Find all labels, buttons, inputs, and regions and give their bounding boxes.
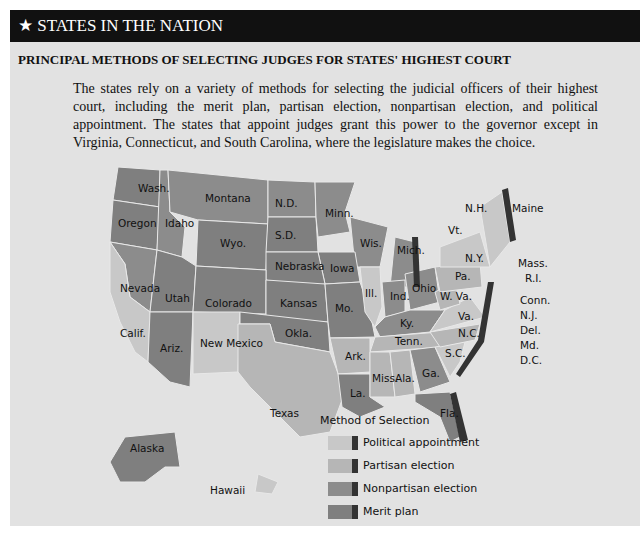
label-colorado: Colorado	[205, 297, 252, 309]
label-virginia: Va.	[458, 310, 474, 322]
label-louisiana: La.	[350, 387, 366, 399]
label-illinois: Ill.	[365, 287, 377, 299]
label-arkansas: Ark.	[345, 350, 366, 362]
content-panel: PRINCIPAL METHODS OF SELECTING JUDGES FO…	[10, 42, 640, 526]
label-vermont: Vt.	[448, 224, 463, 236]
label-hawaii: Hawaii	[210, 484, 245, 496]
label-connecticut: Conn.	[520, 294, 550, 306]
legend-item-partisan-election: Partisan election	[328, 454, 479, 477]
legend: Method of Selection Political appointmen…	[320, 414, 479, 523]
label-montana: Montana	[205, 192, 251, 204]
swatch-political-appointment	[328, 436, 358, 450]
label-new-hampshire: N.H.	[465, 202, 487, 214]
section-header: ★ STATES IN THE NATION	[10, 10, 640, 42]
label-alabama: Ala.	[395, 372, 415, 384]
legend-item-merit-plan: Merit plan	[328, 500, 479, 523]
label-kansas: Kansas	[280, 297, 317, 309]
label-north-dakota: N.D.	[275, 197, 298, 209]
label-massachusetts: Mass.	[518, 257, 548, 269]
swatch-partisan-election	[328, 459, 358, 473]
label-pennsylvania: Pa.	[455, 270, 471, 282]
label-rhode-island: R.I.	[525, 272, 542, 284]
swatch-nonpartisan-election	[328, 482, 358, 496]
star-icon: ★	[18, 16, 33, 35]
state-alaska	[110, 432, 180, 482]
label-kentucky: Ky.	[400, 317, 414, 329]
label-nebraska: Nebraska	[275, 260, 325, 272]
label-nevada: Nevada	[120, 282, 160, 294]
label-washington: Wash.	[138, 182, 170, 194]
label-south-dakota: S.D.	[275, 229, 296, 241]
legend-item-political-appointment: Political appointment	[328, 431, 479, 454]
label-south-carolina: S.C.	[445, 347, 466, 359]
label-iowa: Iowa	[330, 262, 355, 274]
label-maryland: Md.	[520, 339, 539, 351]
label-delaware: Del.	[520, 324, 541, 336]
label-alaska: Alaska	[130, 442, 164, 454]
label-arizona: Ariz.	[160, 342, 183, 354]
label-new-mexico: New Mexico	[200, 337, 263, 349]
label-dc: D.C.	[520, 354, 542, 366]
label-indiana: Ind.	[390, 290, 410, 302]
legend-title: Method of Selection	[320, 414, 479, 427]
label-oregon: Oregon	[118, 217, 157, 229]
label-michigan: Mich.	[397, 244, 425, 256]
label-minnesota: Minn.	[325, 207, 354, 219]
state-hawaii	[255, 474, 278, 494]
label-ohio: Ohio	[412, 282, 436, 294]
label-wyoming: Wyo.	[220, 237, 246, 249]
label-maine: Maine	[512, 202, 544, 214]
legend-item-nonpartisan-election: Nonpartisan election	[328, 477, 479, 500]
label-utah: Utah	[165, 292, 190, 304]
label-new-york: N.Y.	[465, 252, 484, 264]
label-wisconsin: Wis.	[360, 237, 382, 249]
label-georgia: Ga.	[422, 367, 440, 379]
label-texas: Texas	[269, 407, 299, 419]
label-tennessee: Tenn.	[394, 335, 423, 347]
section-title: STATES IN THE NATION	[37, 16, 223, 35]
label-west-virginia: W. Va.	[440, 290, 472, 302]
label-missouri: Mo.	[335, 302, 354, 314]
swatch-merit-plan	[328, 505, 358, 519]
label-idaho: Idaho	[165, 217, 194, 229]
label-new-jersey: N.J.	[520, 309, 538, 321]
label-north-carolina: N.C.	[458, 327, 480, 339]
label-california: Calif.	[120, 327, 146, 339]
label-oklahoma: Okla.	[285, 327, 312, 339]
